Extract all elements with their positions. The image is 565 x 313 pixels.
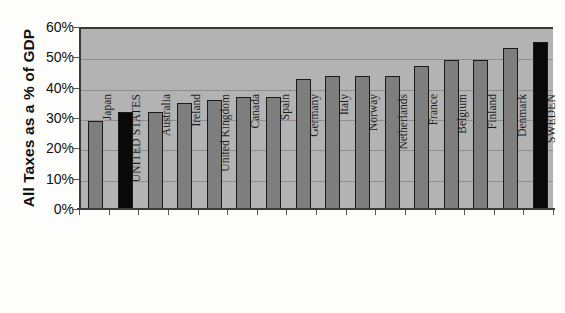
x-axis-category-labels: JapanUNITED STATESAustraliaIrelandUnited… <box>0 0 565 313</box>
x-label-italy: Italy <box>337 94 351 214</box>
x-label-france: France <box>426 94 440 214</box>
x-label-spain: Spain <box>278 94 292 214</box>
x-label-japan: Japan <box>100 94 114 214</box>
x-label-denmark: Denmark <box>515 94 529 214</box>
x-label-canada: Canada <box>248 94 262 214</box>
x-label-sweden: SWEDEN <box>544 94 558 214</box>
x-label-united-states: UNITED STATES <box>129 94 143 214</box>
x-label-germany: Germany <box>307 94 321 214</box>
x-label-netherlands: Netherlands <box>396 94 410 214</box>
x-label-belgium: Belgium <box>455 94 469 214</box>
x-label-australia: Australia <box>159 94 173 214</box>
x-label-norway: Norway <box>366 94 380 214</box>
x-label-united-kingdom: United Kingdom <box>218 94 232 214</box>
x-label-finland: Finland <box>485 94 499 214</box>
bar-chart-screenshot: All Taxes as a % of GDP 60%50%40%30%20%1… <box>0 0 565 313</box>
x-label-ireland: Ireland <box>189 94 203 214</box>
